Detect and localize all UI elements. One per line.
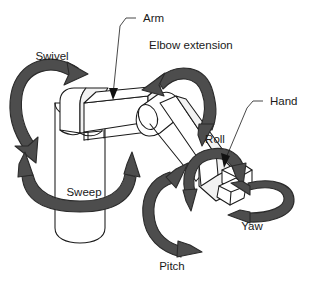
label-arm: Arm bbox=[143, 12, 164, 24]
label-yaw: Yaw bbox=[241, 220, 263, 232]
label-sweep: Sweep bbox=[66, 186, 101, 198]
yaw-arrow-body bbox=[248, 181, 294, 222]
diagram-canvas: Arm Hand Swivel Elbow extension Roll Swe… bbox=[0, 0, 312, 283]
hand-leader-stem bbox=[226, 101, 253, 158]
arm-leader-stem bbox=[113, 18, 126, 95]
hand-leader bbox=[221, 101, 263, 168]
label-swivel: Swivel bbox=[35, 50, 68, 62]
label-hand: Hand bbox=[270, 95, 298, 107]
pitch-arrow-head-bottom bbox=[177, 241, 202, 257]
yaw-arrow bbox=[228, 181, 294, 223]
label-roll: Roll bbox=[205, 133, 225, 145]
robot-arm-diagram: Arm Hand Swivel Elbow extension Roll Swe… bbox=[0, 0, 312, 283]
label-elbow-extension: Elbow extension bbox=[149, 39, 233, 51]
sweep-arrow-head-right bbox=[124, 152, 140, 177]
label-pitch: Pitch bbox=[159, 260, 185, 272]
arm-leader bbox=[109, 18, 136, 100]
roll-arrow-head-left bbox=[183, 189, 197, 211]
